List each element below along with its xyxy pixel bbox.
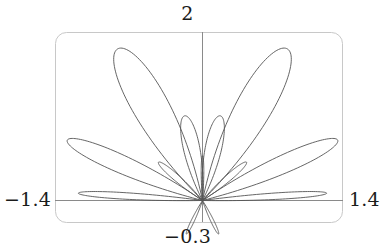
axis-label-bottom: −0.3 [0,227,376,246]
axis-label-right: 1.4 [349,190,380,209]
axis-label-top: 2 [0,4,376,23]
axis-label-left: −1.4 [4,190,51,209]
petal-upper-left-large [114,48,203,200]
petal-left-diagonal-large [67,138,202,200]
petal-right-horizontal-flat [203,192,327,201]
petal-right-diagonal-large [203,138,338,200]
petal-upper-right-large [203,48,292,200]
petal-left-horizontal-flat [78,192,202,201]
